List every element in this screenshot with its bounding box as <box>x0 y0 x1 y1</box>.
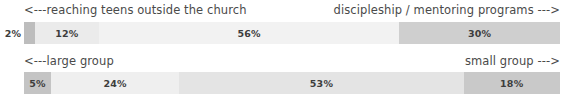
bar-segment-value: 30% <box>468 28 491 39</box>
bar-segment: 56% <box>99 22 399 44</box>
row-2-stacked-bar: 5%24%53%18% <box>24 72 560 94</box>
row-1-right-annotation: discipleship / mentoring programs ---> <box>334 3 560 17</box>
bar-segment: 24% <box>51 72 180 94</box>
row-1-left-annotation: <---reaching teens outside the church <box>24 3 247 17</box>
row-1-outside-label: 2% <box>0 28 24 39</box>
row-2-bar-line: 5%24%53%18% <box>0 72 568 94</box>
bar-segment-value: 56% <box>237 28 260 39</box>
bar-segment: 12% <box>35 22 99 44</box>
row-2-annotations: <---large group small group ---> <box>24 53 560 69</box>
row-1-bar-line: 2% 2%12%56%30% <box>0 22 568 44</box>
row-1-stacked-bar: 2%12%56%30% <box>24 22 560 44</box>
stacked-bar-chart-group: <---reaching teens outside the church di… <box>0 0 568 101</box>
bar-segment: 5% <box>24 72 51 94</box>
bar-segment-value: 18% <box>500 78 523 89</box>
chart-row-2: <---large group small group ---> 5%24%53… <box>0 51 568 101</box>
row-2-right-annotation: small group ---> <box>465 54 560 68</box>
chart-row-1: <---reaching teens outside the church di… <box>0 0 568 51</box>
row-2-left-annotation: <---large group <box>24 54 114 68</box>
bar-segment-value: 12% <box>55 28 78 39</box>
row-1-annotations: <---reaching teens outside the church di… <box>24 2 560 18</box>
bar-segment: 2% <box>24 22 35 44</box>
bar-segment-value: 24% <box>103 78 126 89</box>
bar-segment-value: 5% <box>29 78 46 89</box>
bar-segment-value: 53% <box>310 78 333 89</box>
bar-segment: 18% <box>464 72 560 94</box>
bar-segment: 30% <box>399 22 560 44</box>
bar-segment: 53% <box>179 72 463 94</box>
